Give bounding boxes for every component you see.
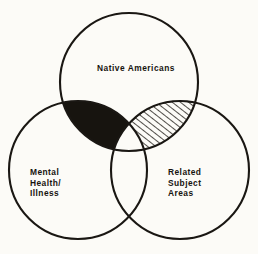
venn-diagram: Native Americans Mental Health/ Illness …: [0, 0, 258, 254]
venn-diagram-canvas: [0, 0, 258, 254]
label-native-americans: Native Americans: [86, 63, 186, 74]
label-mental-health-illness: Mental Health/ Illness: [30, 167, 106, 199]
label-related-subject-areas: Related Subject Areas: [168, 167, 244, 199]
